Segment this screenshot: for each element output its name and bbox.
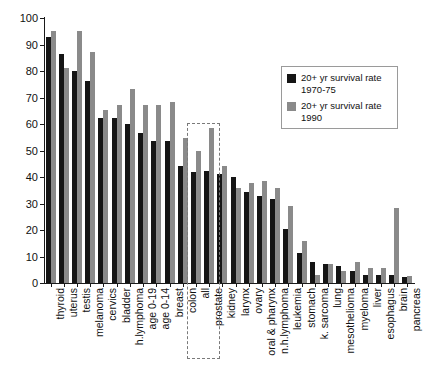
x-axis-label: k. sarcoma <box>319 288 330 339</box>
y-tick-mark <box>40 257 44 258</box>
x-tick-mark <box>183 283 184 287</box>
x-tick-mark <box>288 283 289 287</box>
bar-group <box>191 18 201 283</box>
y-tick-label: 20 <box>26 225 38 236</box>
bar-group <box>72 18 82 283</box>
legend-label-line1: 20+ yr survival rate <box>301 72 382 84</box>
x-axis-label: bladder <box>121 288 132 323</box>
x-axis-label: liver <box>372 288 383 307</box>
x-tick-mark <box>368 283 369 287</box>
bar-group <box>138 18 148 283</box>
x-axis-label: oral & pharynx <box>266 288 277 356</box>
plot-area: 0102030405060708090100 <box>44 18 414 283</box>
x-tick-mark <box>394 283 395 287</box>
bar-group <box>125 18 135 283</box>
bar-group <box>165 18 175 283</box>
x-tick-mark <box>222 283 223 287</box>
x-tick-mark <box>196 283 197 287</box>
x-axis-label: kidney <box>226 288 237 318</box>
bar <box>355 262 360 283</box>
y-tick-label: 10 <box>26 251 38 262</box>
y-tick-mark <box>40 204 44 205</box>
x-axis-label: leukemia <box>292 288 303 330</box>
bar <box>381 268 386 283</box>
x-tick-mark <box>302 283 303 287</box>
legend-label-line1: 20+ yr survival rate <box>301 100 382 112</box>
y-tick-mark <box>40 151 44 152</box>
y-tick-mark <box>40 45 44 46</box>
x-tick-mark <box>381 283 382 287</box>
x-tick-mark <box>355 283 356 287</box>
x-tick-mark <box>170 283 171 287</box>
y-tick-mark <box>40 18 44 19</box>
bar-group <box>231 18 241 283</box>
x-tick-mark <box>236 283 237 287</box>
bar-group <box>85 18 95 283</box>
y-tick-mark <box>40 124 44 125</box>
chart-root: 0102030405060708090100 thyroiduterustest… <box>0 0 426 375</box>
x-axis-label: pancreas <box>411 288 422 331</box>
y-tick-label: 0 <box>32 278 38 289</box>
bar <box>90 52 95 283</box>
legend-label-1990: 20+ yr survival rate 1990 <box>301 100 382 123</box>
x-axis-label: ovary <box>253 288 264 314</box>
bar-group <box>376 18 386 283</box>
x-axis-label: cervics <box>107 288 118 321</box>
bar <box>368 268 373 283</box>
legend-label-line2: 1990 <box>301 112 382 124</box>
bar <box>103 110 108 283</box>
bar <box>77 31 82 283</box>
bar-group <box>46 18 56 283</box>
x-axis-label: larynx <box>240 288 251 316</box>
x-axis-line <box>44 283 415 284</box>
legend-label-line2: 1970-75 <box>301 84 382 96</box>
bar-group <box>402 18 412 283</box>
x-tick-mark <box>328 283 329 287</box>
bar-group <box>310 18 320 283</box>
x-tick-mark <box>64 283 65 287</box>
x-tick-mark <box>341 283 342 287</box>
legend-label-1970-75: 20+ yr survival rate 1970-75 <box>301 72 382 95</box>
bar <box>302 241 307 283</box>
y-tick-label: 70 <box>26 92 38 103</box>
bar-group <box>257 18 267 283</box>
x-axis-label: prostate <box>213 288 224 326</box>
y-tick-mark <box>40 98 44 99</box>
x-tick-mark <box>262 283 263 287</box>
x-tick-mark <box>209 283 210 287</box>
y-tick-label: 50 <box>26 145 38 156</box>
bar <box>130 89 135 283</box>
x-tick-mark <box>249 283 250 287</box>
bar <box>64 68 69 283</box>
legend-swatch-gray <box>287 102 296 111</box>
bar <box>341 271 346 283</box>
bar <box>236 188 241 283</box>
x-axis-label: breast <box>174 288 185 317</box>
x-axis-label: esophagus <box>385 288 396 339</box>
bar <box>209 128 214 283</box>
bar-group <box>270 18 280 283</box>
y-tick-label: 90 <box>26 39 38 50</box>
y-tick-label: 60 <box>26 119 38 130</box>
x-axis-label: age 0-19 <box>147 288 158 329</box>
bar-group <box>217 18 227 283</box>
y-tick-label: 40 <box>26 172 38 183</box>
bar-group <box>178 18 188 283</box>
y-tick-mark <box>40 177 44 178</box>
bar-group <box>244 18 254 283</box>
x-axis-label: myeloma <box>359 288 370 331</box>
legend-item-1970-75: 20+ yr survival rate 1970-75 <box>287 72 392 95</box>
x-axis-label: age 0-14 <box>160 288 171 329</box>
x-tick-mark <box>315 283 316 287</box>
bar-group <box>151 18 161 283</box>
x-axis-label: brain <box>398 288 409 311</box>
bar <box>249 183 254 283</box>
bar <box>315 275 320 283</box>
bar-group <box>204 18 214 283</box>
y-tick-mark <box>40 71 44 72</box>
bar <box>262 181 267 283</box>
x-axis-label: colon <box>187 288 198 313</box>
y-tick-label: 30 <box>26 198 38 209</box>
bar-group <box>350 18 360 283</box>
x-tick-mark <box>407 283 408 287</box>
